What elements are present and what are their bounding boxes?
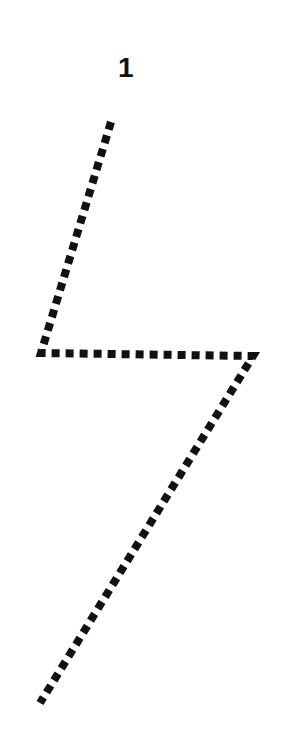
dotted-tracing-path (0, 0, 283, 746)
tracing-stroke (40, 122, 253, 703)
